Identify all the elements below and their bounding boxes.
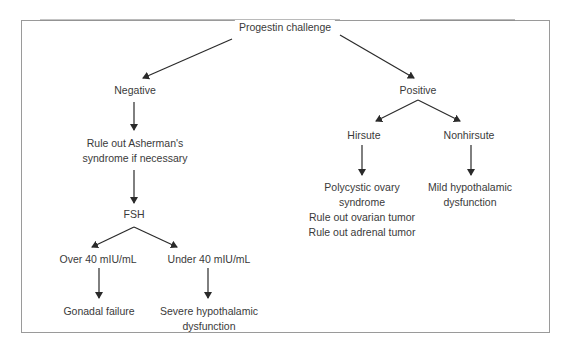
node-progestin-challenge: Progestin challenge [235, 20, 335, 35]
flow-arrows [0, 0, 569, 352]
node-text-line: Polycystic ovary [309, 180, 416, 195]
node-positive: Positive [400, 83, 437, 98]
arrow-fsh-to-under [134, 227, 177, 247]
node-text-line: Mild hypothalamic [428, 180, 512, 195]
node-text-line: Rule out adrenal tumor [309, 225, 416, 240]
arrow-positive-to-nonhirsute [418, 100, 460, 121]
node-negative: Negative [114, 83, 155, 98]
node-fsh: FSH [124, 207, 145, 222]
arrow-root-to-negative [143, 39, 232, 78]
node-text-line: Severe hypothalamic [160, 304, 258, 319]
arrow-root-to-positive [340, 35, 414, 78]
node-hirsute: Hirsute [347, 128, 380, 143]
node-text-line: syndrome if necessary [82, 151, 187, 166]
arrow-positive-to-hirsute [376, 100, 418, 121]
node-text-line: dysfunction [428, 195, 512, 210]
node-mild-hypothalamic-dysfunction: Mild hypothalamic dysfunction [428, 180, 512, 210]
node-severe-hypothalamic-dysfunction: Severe hypothalamic dysfunction [160, 304, 258, 334]
arrow-fsh-to-over [92, 227, 134, 247]
node-rule-out-asherman: Rule out Asherman's syndrome if necessar… [82, 136, 187, 166]
node-text-line: Rule out Asherman's [82, 136, 187, 151]
node-over-40: Over 40 mIU/mL [59, 252, 136, 267]
node-gonadal-failure: Gonadal failure [63, 304, 134, 319]
node-nonhirsute: Nonhirsute [444, 128, 495, 143]
node-polycystic-ovary-syndrome: Polycystic ovary syndrome Rule out ovari… [309, 180, 416, 240]
node-text-line: syndrome [309, 195, 416, 210]
node-text-line: dysfunction [160, 319, 258, 334]
node-text-line: Rule out ovarian tumor [309, 210, 416, 225]
node-under-40: Under 40 mIU/mL [168, 252, 251, 267]
